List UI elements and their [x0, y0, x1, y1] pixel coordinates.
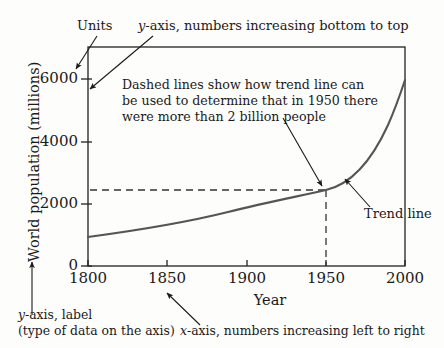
annotation-callout-arrow [283, 118, 322, 186]
caption-x-axis: x-axis, numbers increasing left to right [180, 324, 425, 339]
caption-y-axis-label: y-axis, label [18, 308, 92, 323]
annotation-line-3: were more than 2 billion people [122, 110, 326, 125]
y-axis-ticks [81, 79, 92, 266]
x-tick-label-1900: 1900 [217, 270, 277, 288]
x-tick-label-1950: 1950 [296, 270, 356, 288]
annotation-line-1: Dashed lines show how trend line can [122, 78, 364, 93]
callout-units: Units [77, 18, 112, 33]
caption-x-axis-suffix: -axis, numbers increasing left to right [187, 323, 425, 338]
dashed-reference-lines [90, 190, 326, 266]
caption-x-axis-prefix: x [180, 323, 187, 338]
caption-y-axis-label-line2: (type of data on the axis) [18, 324, 175, 339]
y-axis-title: World population (millions) [26, 62, 42, 262]
caption-y-axis-label-prefix: y [18, 307, 25, 322]
trend-line-callout-arrow [345, 179, 370, 207]
x-axis-title: Year [215, 292, 325, 309]
callout-trend-line: Trend line [364, 206, 432, 221]
annotation-line-2: be used to determine that in 1950 there [122, 94, 378, 109]
x-tick-label-1850: 1850 [137, 270, 197, 288]
figure-world-population-chart: Units y-axis, numbers increasing bottom … [0, 0, 444, 348]
x-tick-label-1800: 1800 [58, 270, 118, 288]
units-callout-arrow [76, 36, 97, 69]
x-tick-label-2000: 2000 [375, 270, 435, 288]
caption-y-axis-label-suffix: -axis, label [25, 307, 92, 322]
x-axis-ticks [88, 260, 405, 266]
callout-yaxis-numbers-suffix: -axis, numbers increasing bottom to top [145, 18, 408, 33]
x-axis-caption-arrow [167, 293, 200, 325]
callout-yaxis-numbers: y-axis, numbers increasing bottom to top [138, 18, 409, 33]
